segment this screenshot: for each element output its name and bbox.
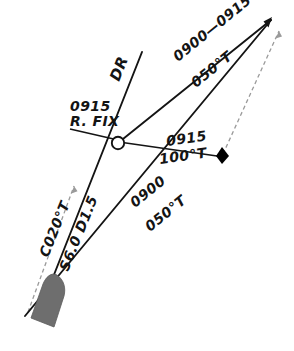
label-fix-name: R. FIX [70, 113, 120, 129]
label-fix-time: 0915 [70, 98, 111, 114]
track-line-0900 [25, 20, 271, 316]
navigation-plot: DR 0915 R. FIX 0900—0915 050°T 0915 100°… [0, 0, 294, 351]
fix-circle-symbol [112, 137, 124, 149]
plot-labels: DR 0915 R. FIX 0900—0915 050°T 0915 100°… [36, 0, 254, 273]
dashed-arrowhead [72, 186, 78, 194]
dr-projection-dashed-line [223, 31, 279, 154]
label-dr: DR [106, 54, 132, 84]
track-line-group [25, 20, 271, 316]
label-upper-leg-course: 050°T [188, 47, 236, 90]
ship-hull [31, 274, 65, 327]
ship-silhouette [31, 274, 65, 327]
dashed-arrowhead [276, 31, 283, 39]
black-diamond-marker [216, 147, 229, 164]
